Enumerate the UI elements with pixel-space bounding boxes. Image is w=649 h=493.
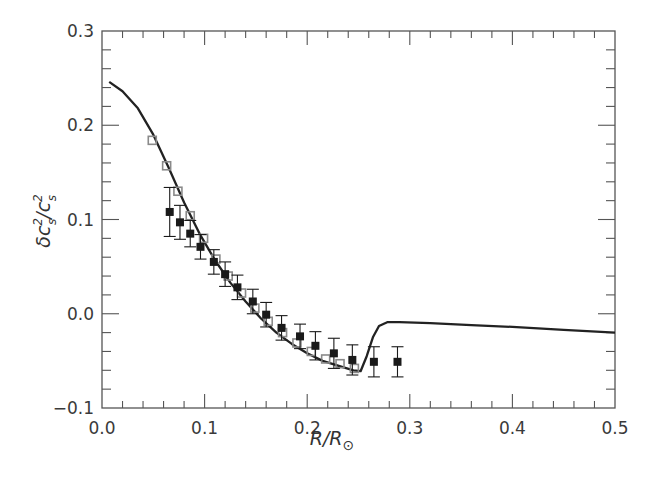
filled-square-marker	[262, 311, 270, 319]
filled-square-marker	[186, 230, 194, 238]
x-tick-label: 0.0	[88, 418, 115, 438]
filled-square-marker	[330, 349, 338, 357]
filled-square-marker	[370, 358, 378, 366]
filled-square-marker	[296, 332, 304, 340]
y-tick-label: 0.0	[67, 304, 94, 324]
filled-square-marker	[348, 356, 356, 364]
filled-square-marker	[166, 208, 174, 216]
x-tick-label: 0.3	[396, 418, 423, 438]
y-axis-label: δc2s/c2s	[31, 194, 59, 247]
model-curve	[109, 82, 615, 371]
filled-square-marker	[210, 258, 218, 266]
filled-square-marker	[221, 270, 229, 278]
filled-square-marker	[196, 243, 204, 251]
observed-points	[164, 187, 404, 376]
filled-square-marker	[233, 283, 241, 291]
filled-square-marker	[249, 297, 257, 305]
y-tick-label: 0.2	[67, 115, 94, 135]
chart: 0.00.10.20.30.40.5 −0.10.00.10.20.3 R/R⊙…	[0, 0, 649, 493]
filled-square-marker	[393, 358, 401, 366]
filled-square-marker	[176, 218, 184, 226]
y-tick-label: 0.3	[67, 21, 94, 41]
x-tick-label: 0.4	[499, 418, 526, 438]
x-tick-label: 0.5	[601, 418, 628, 438]
curve-line	[109, 82, 615, 371]
model-points	[148, 136, 358, 372]
y-tick-label: −0.1	[53, 398, 94, 418]
x-axis-label: R/R⊙	[310, 427, 355, 453]
filled-square-marker	[278, 324, 286, 332]
y-tick-label: 0.1	[67, 210, 94, 230]
filled-square-marker	[311, 342, 319, 350]
x-tick-label: 0.1	[191, 418, 218, 438]
